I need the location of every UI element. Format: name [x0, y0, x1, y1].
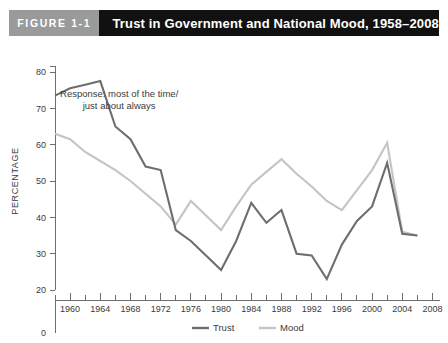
figure-number-label: FIGURE 1-1 — [17, 17, 91, 29]
x-axis: 1960196419681972197619801984198819921996… — [55, 293, 442, 314]
x-tick-label: 1996 — [332, 304, 352, 314]
annotation-line-2: just about always — [82, 100, 156, 111]
x-tick-label: 1980 — [211, 304, 231, 314]
chart-annotation: Response: most of the time/just about al… — [60, 88, 179, 111]
x-tick-label: 1968 — [120, 304, 140, 314]
annotation-line-1: Response: most of the time/ — [60, 88, 179, 99]
y-tick-label: 30 — [36, 249, 46, 259]
y-tick-label: 60 — [36, 140, 46, 150]
x-tick-label: 1984 — [241, 304, 261, 314]
x-tick-label: 2004 — [392, 304, 412, 314]
x-tick-label: 1960 — [60, 304, 80, 314]
figure-header: FIGURE 1-1 Trust in Government and Natio… — [9, 10, 439, 36]
x-tick-label: 2008 — [422, 304, 442, 314]
y-axis-title: PERCENTAGE — [10, 147, 20, 214]
figure-number-box: FIGURE 1-1 — [9, 10, 99, 36]
x-tick-label: 1976 — [181, 304, 201, 314]
y-axis-zero-label: 0 — [41, 328, 46, 338]
y-tick-label: 70 — [36, 104, 46, 114]
chart-legend: TrustMood — [192, 322, 304, 333]
figure-title-text: Trust in Government and National Mood, 1… — [112, 16, 439, 31]
x-tick-label: 1988 — [271, 304, 291, 314]
y-axis-title-text: PERCENTAGE — [10, 147, 20, 214]
figure-title-box: Trust in Government and National Mood, 1… — [99, 10, 439, 36]
y-tick-label: 50 — [36, 176, 46, 186]
x-tick-label: 2000 — [362, 304, 382, 314]
x-tick-label: 1964 — [90, 304, 110, 314]
y-tick-label: 20 — [36, 285, 46, 295]
x-tick-label: 1972 — [151, 304, 171, 314]
series-line-mood — [55, 134, 417, 236]
x-tick-label: 1992 — [302, 304, 322, 314]
y-axis: 203040506070800 — [36, 66, 55, 338]
line-chart: 203040506070800 196019641968197219761980… — [0, 44, 448, 343]
chart-plot-area: 203040506070800 196019641968197219761980… — [0, 44, 448, 343]
legend-label-mood: Mood — [280, 322, 304, 333]
y-tick-label: 40 — [36, 213, 46, 223]
legend-label-trust: Trust — [213, 322, 235, 333]
y-tick-label: 80 — [36, 67, 46, 77]
